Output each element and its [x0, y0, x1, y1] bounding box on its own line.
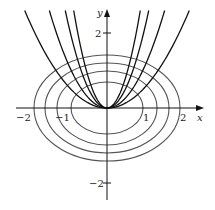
x-tick-2: 2: [180, 112, 186, 123]
orthogonal-trajectories-figure: x y −2 −1 1 2 2 −2: [0, 0, 215, 210]
x-axis-label: x: [197, 112, 203, 123]
y-axis-label: y: [96, 7, 103, 18]
x-tick-neg1: −1: [55, 112, 70, 123]
y-tick-2: 2: [95, 28, 101, 39]
x-tick-neg2: −2: [16, 112, 31, 123]
y-axis-arrow-icon: [104, 9, 110, 17]
x-axis-arrow-icon: [196, 105, 204, 111]
axes: [16, 14, 200, 200]
y-tick-neg2: −2: [89, 178, 104, 189]
x-tick-1: 1: [143, 112, 149, 123]
